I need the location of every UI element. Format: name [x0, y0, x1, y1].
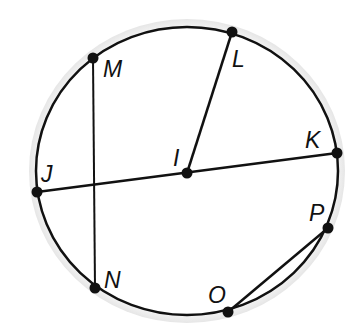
point-I: [182, 168, 193, 179]
label-K: K: [305, 127, 322, 153]
circle-diagram: M L K J I P O N: [0, 0, 357, 327]
point-M: [88, 53, 99, 64]
label-N: N: [104, 267, 121, 293]
point-N: [90, 283, 101, 294]
point-O: [223, 307, 234, 318]
label-I: I: [173, 145, 180, 171]
label-M: M: [103, 56, 123, 82]
point-L: [227, 27, 238, 38]
point-J: [32, 187, 43, 198]
point-K: [332, 148, 343, 159]
label-L: L: [232, 46, 245, 72]
label-J: J: [40, 161, 53, 187]
label-P: P: [309, 200, 325, 226]
label-O: O: [208, 282, 226, 308]
